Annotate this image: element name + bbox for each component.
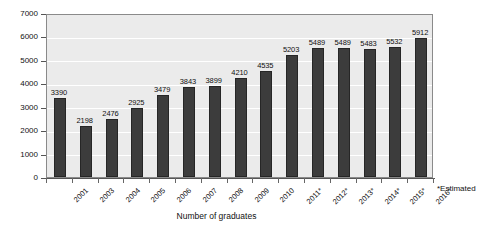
x-axis-tick-label: 2005 [149, 186, 167, 204]
x-axis-tick-label: 2007 [201, 186, 219, 204]
bar [312, 48, 324, 177]
y-axis-tick-label: 1000 [20, 151, 38, 159]
plot-area [46, 14, 433, 178]
x-axis-tick-mark [252, 178, 253, 183]
y-axis-tick-label: 4000 [20, 80, 38, 88]
y-axis: 01000200030004000500060007000 [0, 0, 46, 192]
bar [157, 95, 169, 177]
x-axis-tick-label: 2003 [98, 186, 116, 204]
y-axis-tick-label: 5000 [20, 57, 38, 65]
x-axis-tick-label: 2014* [382, 186, 402, 206]
y-axis-tick-label: 6000 [20, 33, 38, 41]
y-axis-tick-label: 0 [34, 174, 38, 182]
bars-layer [47, 15, 432, 177]
x-axis-tick-label: 2013* [356, 186, 376, 206]
bar [131, 108, 143, 177]
x-axis-tick-mark [72, 178, 73, 183]
bar [338, 48, 350, 177]
bar [106, 119, 118, 177]
y-axis-tick-label: 3000 [20, 104, 38, 112]
bar [54, 98, 66, 177]
x-axis-tick-mark [123, 178, 124, 183]
bar [364, 49, 376, 177]
x-axis-tick-label: 2008 [227, 186, 245, 204]
x-axis-tick-mark [149, 178, 150, 183]
x-axis-tick-label: 2010 [278, 186, 296, 204]
x-axis-tick-mark [330, 178, 331, 183]
x-axis-tick-label: 2009 [252, 186, 270, 204]
footnote-estimated: *Estimated [437, 184, 476, 193]
bar [286, 55, 298, 177]
x-axis-tick-label: 2015* [408, 186, 428, 206]
x-axis-tick-mark [201, 178, 202, 183]
x-axis-tick-mark [381, 178, 382, 183]
x-axis-tick-mark [304, 178, 305, 183]
y-axis-tick-label: 2000 [20, 127, 38, 135]
x-axis-tick-label: 2006 [175, 186, 193, 204]
bar [260, 71, 272, 177]
x-axis-line [41, 178, 435, 179]
x-axis-title: Number of graduates [0, 211, 433, 221]
bar [80, 126, 92, 177]
x-axis-tick-mark [175, 178, 176, 183]
bar [235, 78, 247, 177]
bar [415, 38, 427, 177]
x-axis-tick-label: 2012* [331, 186, 351, 206]
x-axis-tick-mark [433, 178, 434, 183]
x-axis-tick-label: 2001 [72, 186, 90, 204]
x-axis-tick-mark [407, 178, 408, 183]
x-axis-tick-label: 2011* [305, 186, 325, 206]
bar [183, 87, 195, 177]
x-axis-tick-mark [278, 178, 279, 183]
bar [389, 47, 401, 177]
x-axis-tick-label: 2004 [123, 186, 141, 204]
x-axis-tick-mark [356, 178, 357, 183]
bar-chart: 01000200030004000500060007000 3390219824… [0, 0, 486, 237]
y-axis-tick-label: 7000 [20, 10, 38, 18]
x-axis-tick-mark [227, 178, 228, 183]
bar [209, 86, 221, 177]
x-axis-tick-mark [98, 178, 99, 183]
x-axis-tick-mark [46, 178, 47, 183]
